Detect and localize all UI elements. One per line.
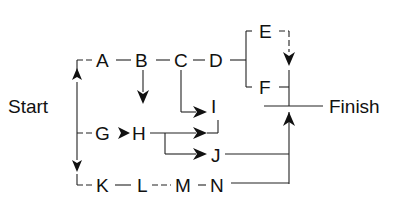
node-c: C (174, 50, 188, 71)
start-spine (72, 60, 82, 185)
b-to-h-connector (137, 70, 149, 104)
e-to-f-connector (279, 31, 295, 66)
node-m: M (175, 175, 191, 196)
node-d: D (209, 50, 223, 71)
node-n: N (210, 175, 224, 196)
arrow-down-icon (72, 160, 82, 172)
arrow-right-icon (118, 127, 130, 139)
node-k: K (96, 175, 109, 196)
node-e: E (259, 21, 272, 42)
d-bracket (246, 31, 255, 87)
node-g: G (95, 123, 110, 144)
network-diagram: Start A B C D E F Finish (0, 0, 417, 208)
node-a: A (96, 50, 109, 71)
node-f: F (259, 77, 271, 98)
arrow-down-icon (283, 52, 295, 66)
h-to-i-connector (150, 120, 218, 139)
start-label: Start (8, 96, 49, 117)
h-to-j-connector (165, 133, 207, 160)
c-to-i-connector (181, 70, 207, 118)
node-j: J (211, 145, 221, 166)
finish-label: Finish (329, 96, 380, 117)
node-l: L (137, 175, 148, 196)
node-h: H (132, 123, 146, 144)
node-b: B (135, 50, 148, 71)
arrow-down-icon (137, 90, 149, 104)
arrow-up-icon (72, 68, 82, 80)
node-i: I (211, 96, 216, 117)
